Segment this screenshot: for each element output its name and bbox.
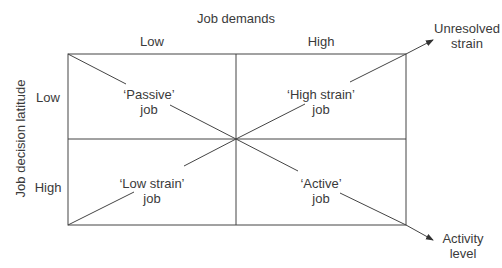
quadrant-passive-sub: job	[114, 102, 184, 117]
x-tick-high: High	[300, 34, 342, 49]
quadrant-passive-title: ‘Passive’	[114, 87, 184, 102]
quadrant-active-title: ‘Active’	[290, 176, 352, 191]
y-tick-high: High	[33, 180, 63, 195]
arrow-label-line1: Unresolved	[432, 21, 502, 36]
quadrant-high-strain-sub: job	[280, 102, 362, 117]
arrow-label-line2: strain	[432, 36, 502, 51]
arrow-unresolved-strain	[406, 40, 433, 54]
quadrant-low-strain: ‘Low strain’ job	[114, 176, 190, 206]
y-tick-low: Low	[34, 90, 62, 105]
arrow-label-line2: level	[430, 246, 496, 261]
quadrant-low-strain-title: ‘Low strain’	[114, 176, 190, 191]
arrow-label-unresolved-strain: Unresolved strain	[432, 21, 502, 51]
x-axis-label: Job demands	[196, 11, 276, 26]
quadrant-passive: ‘Passive’ job	[114, 87, 184, 117]
quadrant-low-strain-sub: job	[114, 191, 190, 206]
arrow-activity-level	[406, 225, 433, 240]
quadrant-high-strain: ‘High strain’ job	[280, 87, 362, 117]
quadrant-active-sub: job	[290, 191, 352, 206]
arrow-label-line1: Activity	[430, 231, 496, 246]
arrow-label-activity-level: Activity level	[430, 231, 496, 261]
quadrant-high-strain-title: ‘High strain’	[280, 87, 362, 102]
x-tick-low: Low	[132, 34, 172, 49]
y-axis-label: Job decision latitude	[13, 74, 28, 204]
quadrant-active: ‘Active’ job	[290, 176, 352, 206]
diagram-lines	[0, 0, 502, 268]
